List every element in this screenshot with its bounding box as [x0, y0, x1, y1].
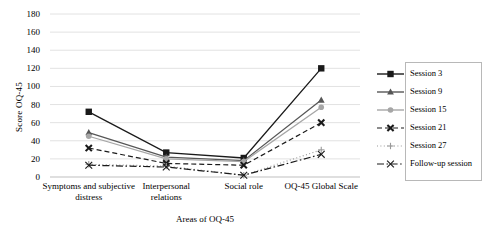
legend-item-label[interactable]: Session 21 — [406, 122, 481, 132]
legend-item-label[interactable]: Session 15 — [406, 104, 481, 114]
legend-item-label[interactable]: Session 3 — [406, 68, 481, 78]
data-point-marker — [387, 143, 393, 149]
y-axis-tick-label: 80 — [31, 100, 40, 109]
legend-item-label[interactable]: Follow-up session — [406, 158, 481, 168]
legend-item-label[interactable]: Session 27 — [406, 140, 481, 150]
legend-item-key — [376, 122, 405, 134]
legend: Session 3Session 9Session 15Session 21Se… — [405, 62, 482, 181]
legend-item-key — [376, 86, 405, 98]
x-axis-category-label: Interpersonal relations — [126, 181, 206, 203]
data-point-marker — [86, 161, 92, 167]
y-axis-tick-label: 60 — [31, 118, 40, 127]
data-point-marker — [388, 107, 394, 113]
x-axis-category-label: Symptoms and subjective distress — [41, 181, 137, 203]
x-axis-title: Areas of OQ-45 — [50, 214, 360, 224]
plot-area — [50, 14, 360, 177]
legend-keys — [376, 62, 405, 181]
series-line — [89, 107, 322, 161]
y-axis-tick-label: 160 — [27, 28, 41, 37]
legend-item-key — [376, 140, 405, 152]
x-axis-category-labels: Symptoms and subjective distressInterper… — [50, 181, 360, 215]
data-point-marker — [318, 65, 324, 71]
y-axis-tick-label: 140 — [27, 46, 41, 55]
legend-item-key — [376, 158, 405, 170]
y-axis-tick-label: 120 — [27, 64, 41, 73]
y-axis-tick-label: 100 — [27, 82, 41, 91]
legend-item-key — [376, 104, 405, 116]
legend-item-key — [376, 68, 405, 80]
y-axis-tick-label: 20 — [31, 154, 40, 163]
data-point-marker — [387, 71, 393, 77]
data-point-marker — [86, 133, 92, 139]
data-point-marker — [86, 109, 92, 115]
data-point-marker — [318, 104, 324, 110]
y-axis-tick-labels: 020406080100120140160180 — [0, 14, 44, 177]
data-point-marker — [318, 96, 325, 102]
chart-figure: Score OQ-45 020406080100120140160180 Sym… — [0, 0, 486, 231]
chart-canvas — [50, 14, 360, 177]
y-axis-tick-label: 180 — [27, 10, 41, 19]
x-axis-category-label: Social role — [204, 181, 284, 192]
y-axis-tick-label: 0 — [36, 173, 41, 182]
legend-item-label[interactable]: Session 9 — [406, 86, 481, 96]
series-line — [89, 68, 322, 158]
x-axis-category-label: OQ-45 Global Scale — [281, 181, 361, 192]
y-axis-tick-label: 40 — [31, 136, 40, 145]
series-line — [89, 150, 322, 175]
